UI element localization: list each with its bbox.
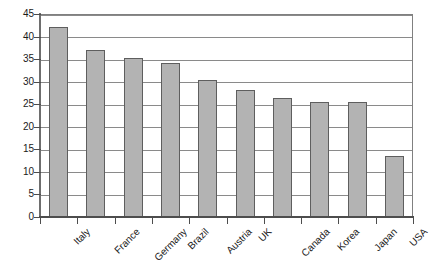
y-tick-mark [34, 149, 41, 150]
x-tick-label-brazil: Brazil [185, 226, 210, 251]
x-tick-mark [152, 218, 153, 224]
y-tick-mark [34, 172, 41, 173]
x-tick-label-germany: Germany [152, 226, 189, 263]
x-tick-mark [115, 218, 116, 224]
x-tick-mark [301, 218, 302, 224]
x-tick-label-usa: USA [407, 226, 429, 248]
y-tick-mark [34, 14, 41, 15]
x-tick-mark [227, 218, 228, 224]
x-tick-label-austria: Austria [224, 226, 254, 256]
x-tick-mark [338, 218, 339, 224]
x-tick-label-italy: Italy [71, 226, 92, 247]
y-tick-mark [34, 59, 41, 60]
x-tick-label-canada: Canada [300, 226, 333, 259]
y-tick-mark [34, 82, 41, 83]
y-tick-mark [34, 127, 41, 128]
x-tick-mark [40, 218, 41, 224]
bar-chart: 051015202530354045 ItalyFranceGermanyBra… [0, 0, 429, 271]
x-tick-mark [413, 218, 414, 224]
x-tick-mark [264, 218, 265, 224]
x-tick-label-france: France [112, 226, 142, 256]
x-tick-mark [376, 218, 377, 224]
x-tick-label-japan: Japan [372, 226, 399, 253]
y-tick-mark [34, 104, 41, 105]
y-tick-mark [34, 194, 41, 195]
x-tick-label-uk: UK [256, 226, 274, 244]
x-axis: ItalyFranceGermanyBrazilAustriaUKCanadaK… [0, 0, 429, 271]
x-tick-mark [189, 218, 190, 224]
x-tick-mark [77, 218, 78, 224]
x-tick-label-korea: Korea [335, 226, 362, 253]
y-tick-mark [34, 37, 41, 38]
